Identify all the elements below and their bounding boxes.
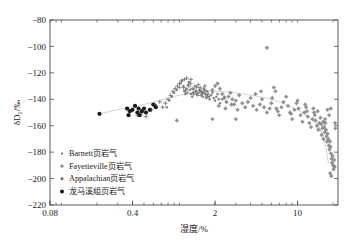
legend-marker-dot — [61, 152, 63, 154]
data-point-filled-circle — [148, 108, 152, 112]
y-tick-label: −80 — [32, 15, 47, 25]
x-tick-label: 0.08 — [42, 208, 58, 218]
data-point-filled-circle — [97, 112, 101, 116]
chart-figure: −80−100−120−140−160−180−200−2200.080.421… — [0, 0, 353, 248]
legend-swatch — [61, 152, 63, 154]
x-tick-label: 10 — [293, 208, 303, 218]
legend-swatch — [60, 189, 64, 193]
y-tick-label: −140 — [27, 94, 46, 104]
scatter-plot: −80−100−120−140−160−180−200−2200.080.421… — [0, 0, 353, 248]
data-point-dot — [196, 94, 199, 97]
data-point-filled-circle — [142, 106, 146, 110]
y-tick-label: −180 — [27, 147, 46, 157]
data-point-dot — [191, 95, 194, 98]
y-tick-label: −160 — [27, 121, 46, 131]
data-point-filled-circle — [154, 105, 158, 109]
y-tick-label: −200 — [27, 174, 46, 184]
x-axis-title: 湿度/% — [180, 223, 209, 234]
legend-item: Appalachian页岩气 — [60, 173, 134, 183]
data-point-dot — [210, 94, 213, 97]
legend-label: 龙马溪组页岩气 — [69, 186, 125, 196]
y-axis-title: δD₁/‰ — [12, 100, 22, 125]
data-point-filled-circle — [133, 104, 137, 108]
data-point-dot — [166, 106, 169, 109]
x-tick-label: 2 — [213, 208, 218, 218]
data-point-filled-circle — [126, 113, 130, 117]
legend-item: Fayetteville页岩气 — [60, 161, 132, 171]
legend-item: Barnett页岩气 — [61, 148, 117, 158]
data-point-filled-circle — [130, 108, 134, 112]
data-point-dot — [208, 98, 211, 101]
data-point-dot — [214, 99, 217, 102]
data-point-filled-circle — [144, 110, 148, 114]
y-tick-label: −100 — [27, 42, 46, 52]
data-point-dot — [216, 93, 219, 96]
legend-item: 龙马溪组页岩气 — [60, 186, 125, 196]
data-point-filled-circle — [136, 106, 140, 110]
data-point-filled-circle — [138, 113, 142, 117]
legend-label: Barnett页岩气 — [69, 148, 117, 158]
data-point-dot — [215, 95, 218, 98]
data-point-dot — [218, 98, 221, 101]
legend-label: Appalachian页岩气 — [69, 173, 134, 183]
legend-label: Fayetteville页岩气 — [69, 161, 132, 171]
legend-marker-filled-circle — [60, 189, 64, 193]
data-point-dot — [213, 97, 216, 100]
y-tick-label: −120 — [27, 68, 46, 78]
x-tick-label: 0.4 — [127, 208, 139, 218]
